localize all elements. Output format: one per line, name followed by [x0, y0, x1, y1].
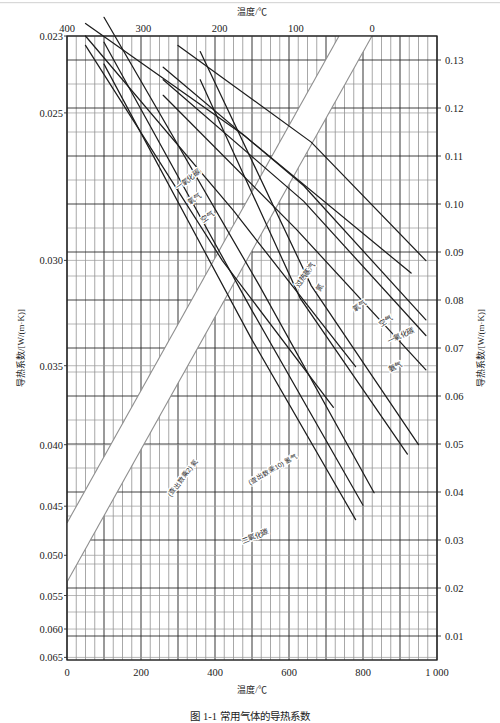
- left-axis-tick: 0.050: [39, 550, 63, 561]
- top-axis-tick: 0: [369, 23, 374, 34]
- right-axis-tick: 0.07: [445, 343, 463, 354]
- right-axis-tick: 0.13: [445, 55, 463, 66]
- bottom-axis-tick: 1 000: [425, 667, 449, 678]
- right-axis-tick: 0.04: [445, 487, 464, 498]
- right-axis-tick: 0.12: [445, 103, 463, 114]
- left-axis-tick: 0.035: [39, 361, 63, 372]
- chart-canvas: 4003002001000 02004006008001 000 0.0230.…: [0, 0, 500, 723]
- bottom-axis-tick: 200: [133, 667, 149, 678]
- bottom-axis-tick: 0: [64, 667, 69, 678]
- right-axis-tick: 0.08: [445, 295, 463, 306]
- bottom-axis-tick: 800: [355, 667, 371, 678]
- top-axis-title: 温度/℃: [237, 6, 267, 17]
- left-axis-tick: 0.040: [39, 440, 63, 451]
- left-axis-tick: 0.060: [39, 624, 63, 635]
- right-axis-tick: 0.06: [445, 391, 463, 402]
- right-axis-tick: 0.11: [445, 151, 463, 162]
- page-top-rule: [0, 2, 500, 3]
- left-axis-tick: 0.023: [39, 31, 63, 42]
- left-axis-tick: 0.055: [39, 591, 63, 602]
- right-axis-tick: 0.05: [445, 439, 463, 450]
- left-axis-title: 导热系数/[W/(m·K)]: [15, 309, 26, 387]
- right-axis-tick: 0.09: [445, 247, 463, 258]
- bottom-axis-tick: 400: [207, 667, 223, 678]
- top-axis-tick: 300: [135, 23, 151, 34]
- left-axis-tick: 0.045: [39, 501, 63, 512]
- left-axis-tick: 0.025: [39, 108, 63, 119]
- right-axis-tick: 0.03: [445, 535, 463, 546]
- bottom-axis-tick: 600: [281, 667, 297, 678]
- right-axis-tick: 0.01: [445, 631, 463, 642]
- top-axis-tick: 200: [212, 23, 228, 34]
- thermal-conductivity-nomogram: 4003002001000 02004006008001 000 0.0230.…: [0, 0, 500, 723]
- top-axis-tick: 100: [288, 23, 304, 34]
- left-axis-tick: 0.065: [39, 652, 63, 663]
- right-axis-tick: 0.10: [445, 199, 463, 210]
- left-axis-tick: 0.030: [39, 255, 63, 266]
- right-axis-tick: 0.02: [445, 583, 463, 594]
- right-axis-title: 导热系数/[W/(m·K)]: [475, 309, 486, 387]
- bottom-axis-title: 温度/℃: [237, 684, 267, 695]
- grid-layer: [67, 36, 437, 660]
- figure-caption: 图 1-1 常用气体的导热系数: [190, 710, 310, 722]
